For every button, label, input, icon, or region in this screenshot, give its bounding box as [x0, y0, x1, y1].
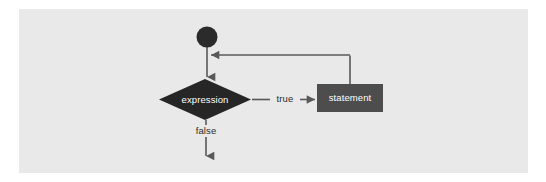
- start-node: [197, 27, 218, 48]
- statement-node-label: statement: [329, 92, 372, 103]
- edge-label-false: false: [196, 125, 217, 136]
- flowchart-canvas: expression statement true false: [0, 0, 546, 182]
- edge-label-true: true: [277, 93, 294, 104]
- diagram-panel: [19, 9, 528, 173]
- decision-node-label: expression: [182, 94, 229, 105]
- flowchart-figure: expression statement true false: [0, 0, 546, 182]
